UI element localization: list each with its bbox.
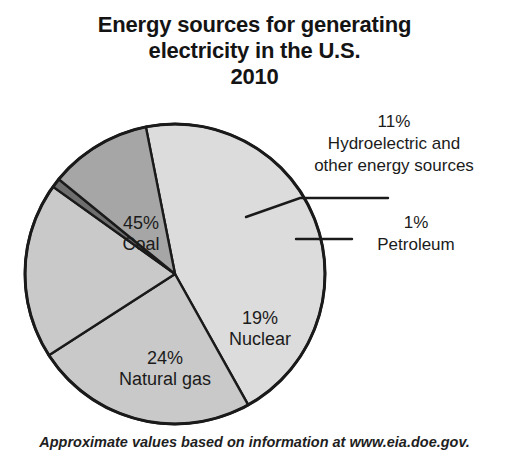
slice-label-petroleum-name: Petroleum: [356, 234, 476, 256]
pie-chart-figure: Energy sources for generating electricit…: [0, 0, 509, 462]
slice-label-hydroelectric-name-line-1: Hydroelectric and: [286, 133, 502, 155]
slice-label-natural-gas-percent: 24%: [80, 348, 250, 369]
slice-label-coal: 45% Coal: [86, 213, 196, 255]
slice-label-nuclear-name: Nuclear: [205, 329, 315, 350]
source-footnote: Approximate values based on information …: [0, 434, 509, 450]
slice-label-petroleum: 1% Petroleum: [356, 212, 476, 256]
slice-label-nuclear-percent: 19%: [205, 308, 315, 329]
slice-label-nuclear: 19% Nuclear: [205, 308, 315, 350]
slice-label-natural-gas-name: Natural gas: [80, 369, 250, 390]
slice-label-coal-percent: 45%: [86, 213, 196, 234]
slice-label-natural-gas: 24% Natural gas: [80, 348, 250, 390]
slice-label-petroleum-percent: 1%: [356, 212, 476, 234]
slice-label-coal-name: Coal: [86, 234, 196, 255]
slice-label-hydroelectric-percent: 11%: [286, 111, 502, 133]
slice-label-hydroelectric: 11% Hydroelectric and other energy sourc…: [286, 111, 502, 177]
slice-label-hydroelectric-name-line-2: other energy sources: [286, 155, 502, 177]
